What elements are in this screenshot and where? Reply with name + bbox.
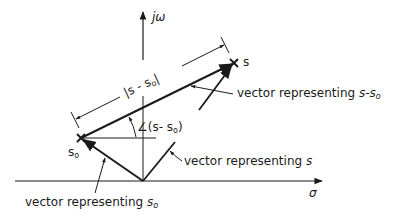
leader-vec-s0	[95, 158, 105, 193]
imag-axis-label: jω	[150, 10, 165, 24]
point-s-label: s	[243, 55, 249, 69]
point-s-marker	[230, 59, 238, 67]
dim-line-left	[76, 97, 120, 119]
angle-arc	[129, 117, 136, 137]
s-plane-diagram: jω σ s so |s - so| ∠(s- so) vector repre…	[0, 0, 402, 220]
dim-extension-right	[221, 37, 229, 53]
leader-vec-s	[170, 151, 182, 161]
vector-s-lower	[143, 142, 175, 181]
dim-line-right	[182, 45, 224, 66]
point-s0-label: so	[68, 145, 79, 160]
vec-diff-label: vector representing s-so	[237, 86, 381, 101]
vec-s-label: vector representing s	[184, 154, 312, 168]
magnitude-label: |s - so|	[121, 71, 161, 100]
diagram-canvas: jω σ s so |s - so| ∠(s- so) vector repre…	[0, 0, 402, 220]
angle-label: ∠(s- so)	[137, 120, 183, 135]
dim-extension-left	[71, 112, 79, 128]
vec-s0-label: vector representing so	[25, 195, 158, 210]
vector-s0	[83, 140, 143, 182]
real-axis-label: σ	[309, 186, 317, 200]
